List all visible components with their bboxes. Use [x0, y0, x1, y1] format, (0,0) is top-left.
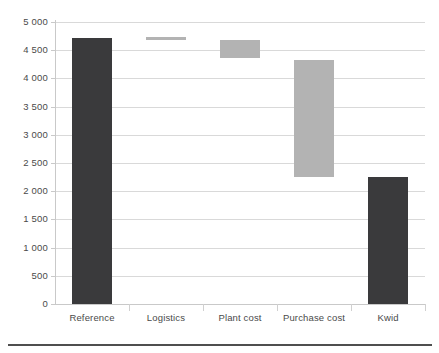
- y-tick-label: 2 000: [6, 186, 48, 196]
- category-separator: [425, 304, 426, 311]
- y-tick-mark: [51, 22, 55, 23]
- y-tick-mark: [51, 78, 55, 79]
- bar-plant-cost: [220, 40, 260, 58]
- y-tick-label: 1 000: [6, 243, 48, 253]
- y-axis-tick-labels: 05001 0001 5002 0002 5003 0003 5004 0004…: [6, 0, 48, 320]
- x-tick-label-kwid: Kwid: [351, 312, 425, 323]
- waterfall-chart-figure: 05001 0001 5002 0002 5003 0003 5004 0004…: [0, 0, 439, 353]
- y-tick-label: 2 500: [6, 158, 48, 168]
- y-tick-mark: [51, 304, 55, 305]
- x-tick-label-plant-cost: Plant cost: [203, 312, 277, 323]
- y-tick-mark: [51, 135, 55, 136]
- y-tick-mark: [51, 107, 55, 108]
- y-tick-mark: [51, 191, 55, 192]
- x-tick-label-purchase-cost: Purchase cost: [277, 312, 351, 323]
- bar-reference: [72, 38, 112, 304]
- y-tick-mark: [51, 163, 55, 164]
- bar-logistics: [146, 37, 186, 40]
- y-tick-label: 4 000: [6, 73, 48, 83]
- y-tick-label: 4 500: [6, 45, 48, 55]
- bar-series: [55, 0, 425, 320]
- y-tick-label: 3 500: [6, 102, 48, 112]
- y-tick-mark: [51, 50, 55, 51]
- y-tick-mark: [51, 276, 55, 277]
- y-tick-mark: [51, 219, 55, 220]
- y-tick-label: 0: [6, 299, 48, 309]
- y-tick-label: 5 000: [6, 17, 48, 27]
- bar-kwid: [368, 177, 408, 304]
- x-tick-label-reference: Reference: [55, 312, 129, 323]
- plot-wrapper: 05001 0001 5002 0002 5003 0003 5004 0004…: [0, 0, 439, 320]
- bottom-divider: [8, 344, 432, 346]
- y-tick-label: 1 500: [6, 214, 48, 224]
- plot-area: [55, 0, 425, 320]
- y-tick-mark: [51, 248, 55, 249]
- x-axis-tick-labels: ReferenceLogisticsPlant costPurchase cos…: [55, 312, 425, 334]
- y-tick-label: 500: [6, 271, 48, 281]
- y-tick-label: 3 000: [6, 130, 48, 140]
- bar-purchase-cost: [294, 60, 334, 177]
- x-tick-label-logistics: Logistics: [129, 312, 203, 323]
